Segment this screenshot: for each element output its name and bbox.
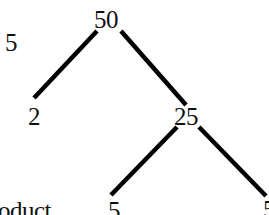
node-right-left-leaf: 5 [108, 198, 120, 215]
edge-25-to-5-right [199, 127, 266, 196]
bottom-label: oduct [0, 198, 51, 215]
side-label: 5 [5, 30, 17, 55]
node-right-child: 25 [174, 104, 198, 129]
factor-tree-edges [0, 0, 269, 215]
node-right-right-leaf: 5 [263, 197, 269, 215]
edge-50-to-2 [34, 31, 97, 98]
edge-25-to-5-left [111, 127, 177, 195]
node-left-child: 2 [28, 104, 40, 129]
edge-50-to-25 [121, 31, 186, 105]
node-root: 50 [94, 7, 118, 32]
